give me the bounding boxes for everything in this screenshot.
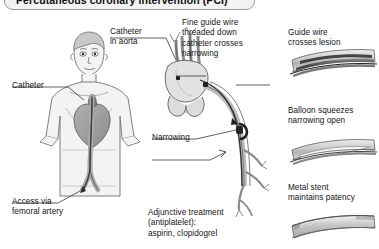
label-guide-wire-crosses-lesion: Guide wire crosses lesion — [288, 28, 341, 49]
illustration-canvas: Percutaneous coronary intervention (PCI) — [0, 0, 379, 249]
label-metal-stent-maintains-patency: Metal stent maintains patency — [288, 183, 355, 204]
vessel-balloon-figure — [290, 139, 377, 164]
label-catheter-in-aorta: Catheter in aorta — [110, 27, 142, 48]
vessel-stent-figure — [292, 215, 376, 240]
label-balloon-squeezes-narrowing-open: Balloon squeezes narrowing open — [288, 106, 353, 127]
label-adjunctive-treatment: Adjunctive treatment (antiplatelet): asp… — [148, 208, 224, 239]
vessel-guidewire-figure — [290, 49, 377, 76]
label-narrowing: Narrowing — [152, 133, 190, 143]
label-access-via-femoral-artery: Access via femoral artery — [12, 197, 63, 218]
label-fine-guide-wire: Fine guide wire threaded down catheter c… — [182, 18, 243, 60]
label-catheter: Catheter — [12, 81, 44, 91]
